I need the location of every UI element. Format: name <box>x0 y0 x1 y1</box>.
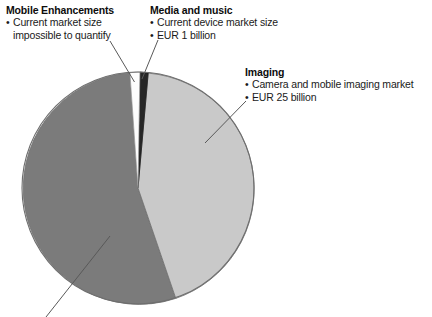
pie-chart-figure: Mobile Enhancements • Current market siz… <box>0 0 432 317</box>
callout-imaging-bullet-1-text: Camera and mobile imaging market <box>252 78 414 90</box>
callout-media-and-music-bullet-1: • Current device market size <box>150 16 278 28</box>
callout-mobile-enhancements: Mobile Enhancements • Current market siz… <box>6 4 114 41</box>
callout-media-and-music-title: Media and music <box>150 4 278 16</box>
callout-mobile-enhancements-bullet-1: • Current market size <box>6 16 114 28</box>
bullet-icon: • <box>150 29 157 41</box>
callout-mobile-enhancements-bullet-1-text: Current market size <box>13 16 102 28</box>
callout-imaging-bullet-2: • EUR 25 billion <box>245 91 414 103</box>
bullet-icon: • <box>6 16 13 28</box>
callout-mobile-enhancements-bullet-1-continuation: impossible to quantify <box>6 29 114 41</box>
bullet-icon: • <box>245 78 252 90</box>
callout-media-and-music-bullet-2: • EUR 1 billion <box>150 29 278 41</box>
callout-imaging: Imaging • Camera and mobile imaging mark… <box>245 66 414 103</box>
callout-imaging-title: Imaging <box>245 66 414 78</box>
callout-media-and-music-bullet-1-text: Current device market size <box>157 16 278 28</box>
callout-imaging-bullet-1: • Camera and mobile imaging market <box>245 78 414 90</box>
callout-imaging-bullet-2-text: EUR 25 billion <box>252 91 316 103</box>
pie-chart-canvas <box>0 0 432 317</box>
bullet-icon: • <box>245 91 252 103</box>
bullet-icon: • <box>150 16 157 28</box>
callout-media-and-music-bullet-2-text: EUR 1 billion <box>157 29 216 41</box>
callout-mobile-enhancements-title: Mobile Enhancements <box>6 4 114 16</box>
callout-media-and-music: Media and music • Current device market … <box>150 4 278 41</box>
